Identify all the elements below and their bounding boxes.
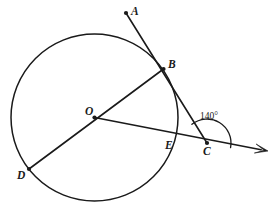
secant-line-a-b-c [126,13,207,143]
diameter-line-b-o-d [29,69,164,169]
point-label-o: O [85,106,93,118]
point-dot-a [124,11,128,15]
point-label-d: D [17,170,25,182]
point-label-e: E [165,140,173,152]
point-dot-d [27,167,31,171]
point-label-a: A [131,6,139,18]
point-dot-b [161,67,165,71]
geometry-figure: A B O C D E 140° [0,0,274,216]
angle-label-140: 140° [200,112,218,122]
geometry-canvas [0,0,274,216]
point-label-c: C [203,146,211,158]
point-label-b: B [168,59,176,71]
